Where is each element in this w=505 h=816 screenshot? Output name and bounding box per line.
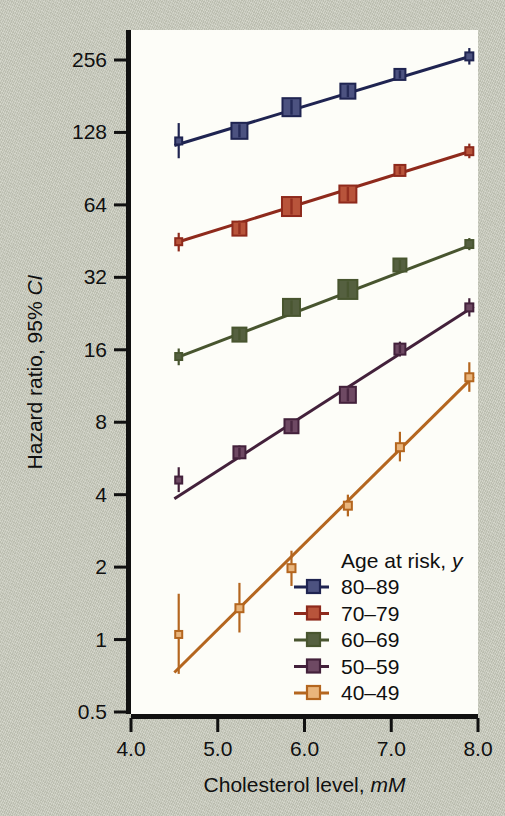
data-point-marker [465,373,473,381]
data-point-marker [465,303,473,311]
y-tick-label: 2 [95,555,107,578]
data-point-marker [465,240,473,248]
data-point-marker [175,477,182,484]
series-60-69 [175,238,473,365]
chart-svg: 0.51248163264128256 4.05.06.07.08.0 Age … [0,0,505,816]
legend-marker-swatch [307,580,320,593]
x-axis-title: Cholesterol level, mM [204,773,406,796]
data-point-marker [175,353,182,360]
legend-label: 40–49 [341,681,399,704]
legend-item-60-69[interactable]: 60–69 [294,628,399,651]
marker-inner-tick [347,187,349,201]
series-80-89 [174,48,473,158]
series-50-59 [174,298,473,498]
legend-label: 60–69 [341,628,399,651]
x-tick-label: 8.0 [463,737,492,760]
fitted-line [179,150,474,241]
marker-inner-tick [347,85,349,97]
marker-inner-tick [399,166,401,174]
fitted-line [174,307,473,499]
data-point-marker [344,502,352,510]
data-point-marker [175,631,182,638]
y-tick-label: 64 [84,193,108,216]
legend-marker-swatch [307,633,320,646]
y-tick-label: 128 [72,120,107,143]
data-point-marker [175,137,182,144]
data-point-marker [175,238,182,245]
fitted-line [176,244,474,358]
y-tick-label: 8 [95,410,107,433]
legend-item-80-89[interactable]: 80–89 [294,575,399,598]
marker-inner-tick [399,70,401,78]
fitted-line [174,55,473,145]
legend-marker-swatch [307,686,320,699]
y-axis-title: Hazard ratio, 95% CI [23,274,46,469]
legend-label: 80–89 [341,575,399,598]
series-40-49 [174,362,473,674]
legend-label: 70–79 [341,602,399,625]
y-tick-label: 1 [95,628,107,651]
data-point-marker [465,52,473,60]
y-tick-label: 256 [72,48,107,71]
marker-inner-tick [399,260,401,270]
marker-inner-tick [238,124,240,137]
fitted-line [174,376,473,672]
x-tick-label: 7.0 [377,737,406,760]
legend-marker-swatch [307,607,320,620]
figure-background: 0.51248163264128256 4.05.06.07.08.0 Age … [0,0,505,816]
marker-inner-tick [238,448,240,457]
x-tick-label: 4.0 [116,737,145,760]
legend-title: Age at risk, y [341,549,464,572]
x-axis-ticks: 4.05.06.07.08.0 [116,718,492,760]
y-axis-ticks: 0.51248163264128256 [72,48,128,723]
x-tick-label: 6.0 [290,737,319,760]
marker-inner-tick [238,223,240,234]
series-70-79 [175,144,473,252]
y-tick-label: 4 [95,483,107,506]
legend-marker-swatch [307,660,320,673]
legend-label: 50–59 [341,655,399,678]
legend-item-50-59[interactable]: 50–59 [294,655,399,678]
data-point-marker [287,564,295,572]
legend-item-40-49[interactable]: 40–49 [294,681,399,704]
x-tick-label: 5.0 [203,737,232,760]
data-point-marker [396,443,404,451]
y-tick-label: 32 [84,265,107,288]
marker-inner-tick [290,300,292,314]
marker-inner-tick [347,388,349,401]
legend-item-70-79[interactable]: 70–79 [294,602,399,625]
marker-inner-tick [290,421,292,432]
data-series-group [174,48,473,674]
marker-inner-tick [399,345,401,353]
marker-inner-tick [347,281,349,297]
marker-inner-tick [238,329,240,340]
marker-inner-tick [290,199,292,215]
chart-legend: Age at risk, y80–8970–7960–6950–5940–49 [294,549,464,704]
marker-inner-tick [290,100,292,115]
data-point-marker [235,604,243,612]
y-tick-label: 16 [84,338,107,361]
y-tick-label: 0.5 [78,700,107,723]
data-point-marker [465,147,473,155]
